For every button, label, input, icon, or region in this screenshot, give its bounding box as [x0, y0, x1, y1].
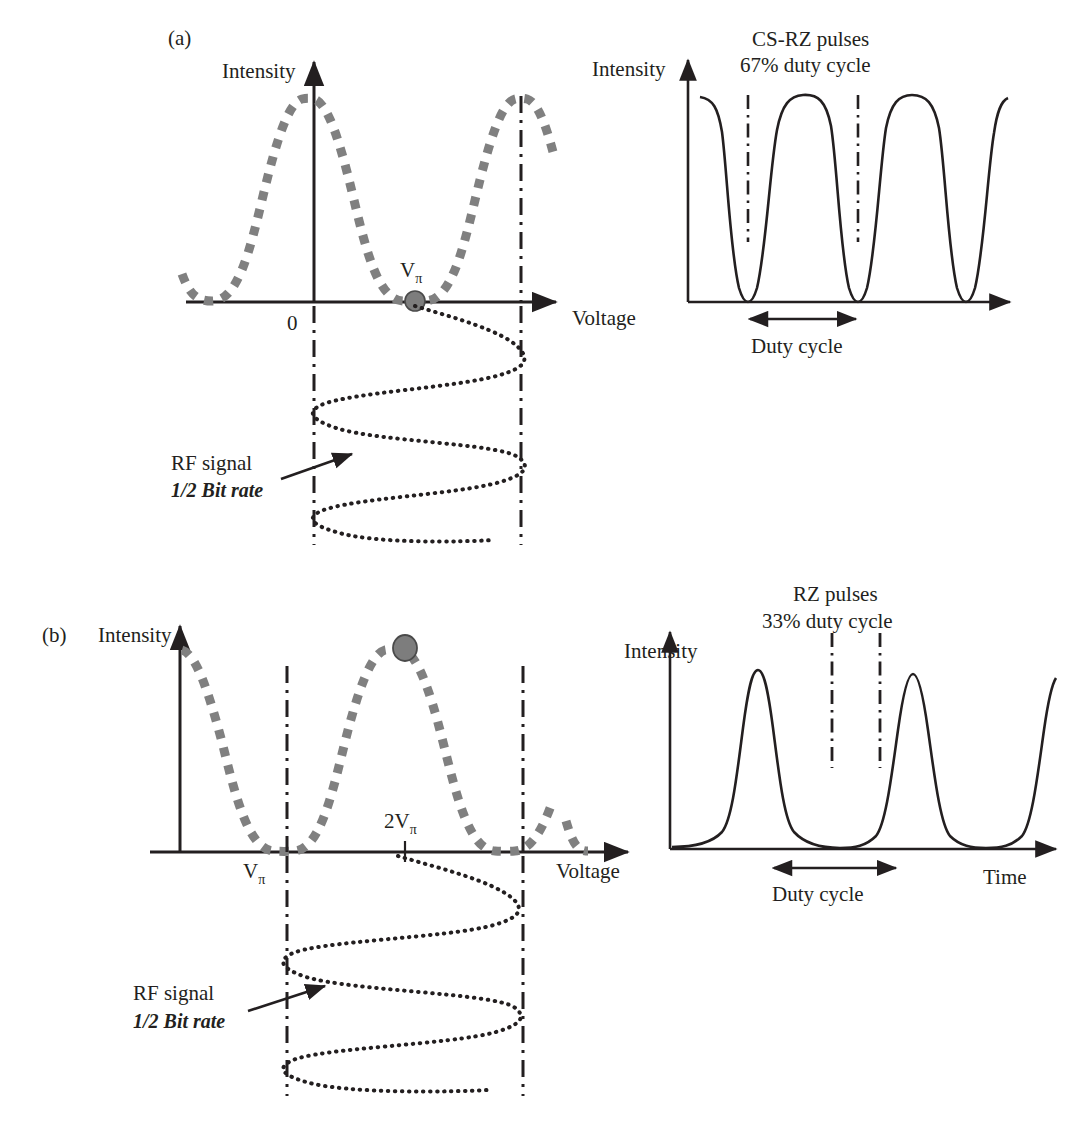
panel-a-x-axis-label: Voltage [572, 306, 636, 330]
panel-b-output-x-axis-label: Time [983, 865, 1027, 889]
panel-b-x-axis-label: Voltage [556, 859, 620, 883]
panel-b-rf-label-line2: 1/2 Bit rate [133, 1010, 225, 1032]
panel-b-rf-label-line1: RF signal [133, 981, 214, 1005]
panel-a-duty-cycle-label: Duty cycle [751, 334, 843, 358]
panel-a-rf-label-line1: RF signal [171, 451, 252, 475]
panel-b-bias-point-marker [393, 635, 417, 661]
figure-background [0, 0, 1083, 1122]
panel-b-output-title-line1: RZ pulses [793, 582, 878, 606]
panel-b-output-y-axis-label: Intensity [624, 639, 698, 663]
panel-a-origin-label: 0 [287, 311, 298, 335]
panel-a-output-title-line1: CS-RZ pulses [752, 27, 869, 51]
panel-a-tag: (a) [168, 26, 191, 50]
panel-b-output-title-line2: 33% duty cycle [762, 609, 893, 633]
panel-a-y-axis-label: Intensity [222, 59, 296, 83]
panel-b-duty-cycle-label: Duty cycle [772, 882, 864, 906]
panel-b-tag: (b) [42, 623, 67, 647]
panel-a-output-title-line2: 67% duty cycle [740, 53, 871, 77]
figure-canvas: (a) Intensity Voltage Vπ 0 [0, 0, 1083, 1122]
panel-a-rf-label-line2: 1/2 Bit rate [171, 479, 263, 501]
panel-a-output-y-axis-label: Intensity [592, 57, 666, 81]
panel-b-y-axis-label: Intensity [98, 623, 172, 647]
